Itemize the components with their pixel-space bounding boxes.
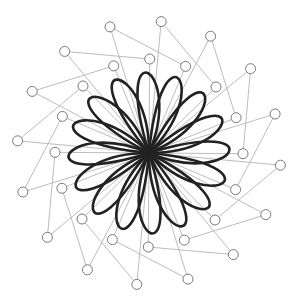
bezier-flower-diagram [0,0,299,306]
control-point-handle[interactable] [179,235,189,245]
control-point-handle[interactable] [145,54,155,64]
control-point-handle[interactable] [270,109,280,119]
control-point-handle[interactable] [181,61,191,71]
control-point-handle[interactable] [261,210,271,220]
control-point-handle[interactable] [50,147,60,157]
control-point-handle[interactable] [210,215,220,225]
control-point-handle[interactable] [78,81,88,91]
control-point-handle[interactable] [231,113,241,123]
control-point-handle[interactable] [27,86,37,96]
control-point-handle[interactable] [57,111,67,121]
control-point-handle[interactable] [105,22,115,32]
control-point-handle[interactable] [228,250,238,260]
control-point-handle[interactable] [231,185,241,195]
control-point-handle[interactable] [13,136,23,146]
control-point-handle[interactable] [42,232,52,242]
control-point-handle[interactable] [109,61,119,71]
control-point-handle[interactable] [18,187,28,197]
control-point-handle[interactable] [156,17,166,27]
control-point-handle[interactable] [183,274,193,284]
control-point-handle[interactable] [238,149,248,159]
control-point-handle[interactable] [211,82,221,92]
control-point-handle[interactable] [275,160,285,170]
control-point-handle[interactable] [206,31,216,41]
control-point-handle[interactable] [57,183,67,193]
control-point-handle[interactable] [60,46,70,56]
control-point-handle[interactable] [107,235,117,245]
control-point-handle[interactable] [82,265,92,275]
control-point-handle[interactable] [132,279,142,289]
control-point-handle[interactable] [77,214,87,224]
control-point-handle[interactable] [143,242,153,252]
control-point-handle[interactable] [246,64,256,74]
